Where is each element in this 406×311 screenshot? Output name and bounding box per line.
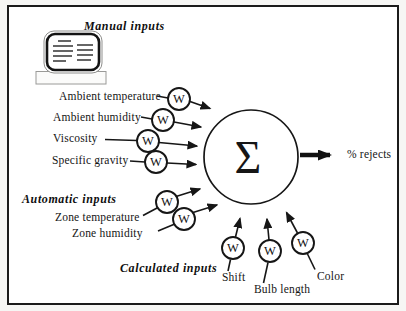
label-zone-humidity: Zone humidity (72, 228, 143, 240)
weight-label: W (142, 134, 154, 148)
label-output-percent-rejects: % rejects (347, 149, 391, 161)
manual-inputs-title: Manual inputs (84, 20, 165, 32)
weight-label: W (157, 113, 169, 127)
weight-label: W (297, 236, 309, 250)
weight-label: W (178, 212, 190, 226)
weight-label: W (161, 195, 173, 209)
label-ambient-temperature: Ambient temperature (59, 91, 161, 103)
sigma-symbol: Σ (235, 132, 262, 183)
weight-node-viscosity: W (137, 130, 159, 152)
label-ambient-humidity: Ambient humidity (53, 112, 141, 124)
label-viscosity: Viscosity (53, 133, 98, 145)
label-bulb-length: Bulb length (254, 284, 310, 296)
label-color: Color (317, 271, 344, 283)
label-zone-temperature: Zone temperature (55, 212, 140, 224)
weight-node-zone-temperature: W (156, 191, 178, 213)
weight-node-shift: W (222, 237, 244, 259)
label-shift: Shift (222, 272, 245, 284)
weight-node-zone-humidity: W (173, 208, 195, 230)
weight-node-specific-gravity: W (145, 151, 167, 173)
weight-node-bulb-length: W (259, 240, 281, 262)
weight-label: W (264, 244, 276, 258)
automatic-inputs-title: Automatic inputs (22, 193, 117, 205)
weight-label: W (227, 241, 239, 255)
weight-node-color: W (292, 232, 314, 254)
weight-label: W (173, 92, 185, 106)
calculated-inputs-title: Calculated inputs (120, 262, 217, 274)
label-specific-gravity: Specific gravity (52, 155, 128, 167)
weight-node-ambient-temperature: W (168, 88, 190, 110)
weight-node-ambient-humidity: W (152, 109, 174, 131)
computer-terminal-icon (36, 31, 106, 84)
figure-neural-sum-diagram: Σ (0, 0, 406, 311)
weight-label: W (150, 155, 162, 169)
